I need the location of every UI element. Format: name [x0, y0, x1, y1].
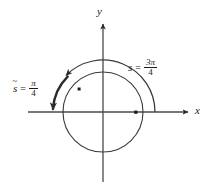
s-tilde-symbol: ~ s — [13, 83, 17, 94]
arc-s-tilde-label: ~ s = π 4 — [13, 79, 38, 98]
y-axis-label: y — [97, 6, 102, 17]
fraction-numerator-right: 3π — [144, 58, 157, 67]
point-terminal — [78, 88, 81, 91]
tilde-accent: ~ — [13, 77, 18, 86]
s-symbol: s — [128, 62, 132, 73]
fraction-denominator-right: 4 — [146, 68, 155, 77]
equals-sign-left: = — [20, 84, 26, 94]
unit-circle-figure: y x ~ s = π 4 s = 3π 4 — [0, 0, 209, 188]
fraction-3pi-over-4: 3π 4 — [144, 58, 157, 77]
fraction-denominator-left: 4 — [29, 89, 38, 98]
x-axis-label: x — [195, 105, 200, 116]
fraction-pi-over-4: π 4 — [29, 79, 38, 98]
point-initial — [134, 111, 137, 114]
arc-s-tilde — [53, 77, 68, 109]
fraction-numerator-left: π — [29, 79, 38, 88]
equals-sign-right: = — [135, 63, 141, 73]
arc-s-label: s = 3π 4 — [128, 58, 157, 77]
